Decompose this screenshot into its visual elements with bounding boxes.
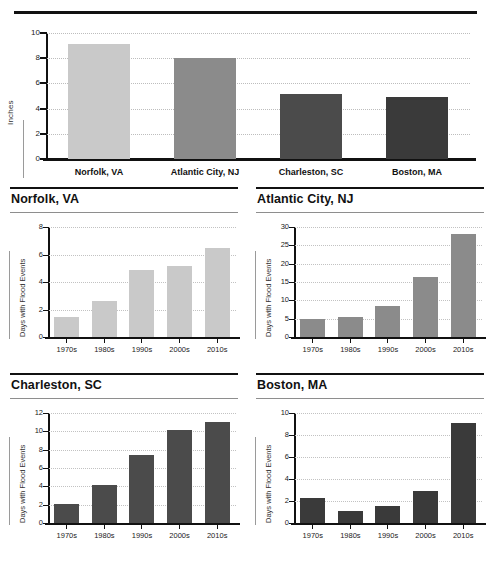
panel-title: Atlantic City, NJ <box>257 192 354 206</box>
panel-bar-cell <box>86 413 124 523</box>
panel-bar-cell <box>198 227 236 337</box>
panel-x-tick-label: 1980s <box>332 531 370 540</box>
panel-y-tick <box>289 523 295 524</box>
panel-x-tick-label: 1970s <box>48 345 86 354</box>
overview-y-tick-label: 8 <box>24 53 40 62</box>
panel-x-tick-label: 1970s <box>294 531 332 540</box>
panel-bar-cell <box>48 227 86 337</box>
panel-y-tick <box>43 337 49 338</box>
panel-y-tick-label: 5 <box>273 314 289 323</box>
panel-x-tick <box>407 525 445 529</box>
panel-plot-area: 0246810 <box>294 413 482 523</box>
panel-x-tick <box>86 525 124 529</box>
panel-y-axis-label: Days with Flood Events <box>18 445 27 523</box>
panel-bar[interactable] <box>92 301 117 337</box>
panel-bar[interactable] <box>129 270 154 337</box>
overview-x-tick-labels: Norfolk, VAAtlantic City, NJCharleston, … <box>46 167 470 177</box>
panel-y-tick-label: 4 <box>27 277 43 286</box>
panel-bar-cell <box>123 227 161 337</box>
panel-bars <box>294 413 482 523</box>
panel-x-tick <box>86 339 124 343</box>
panel-bar-cell <box>161 227 199 337</box>
panel-rule-top <box>256 187 484 189</box>
panel-x-tick <box>332 525 370 529</box>
panel-x-tick-label: 1980s <box>86 345 124 354</box>
panel-x-ticks <box>48 339 236 343</box>
panel-bar-cell <box>369 227 407 337</box>
panel-x-tick <box>369 525 407 529</box>
panel-bar[interactable] <box>167 430 192 523</box>
panel-x-tick-label: 1980s <box>86 531 124 540</box>
panel-bars <box>48 413 236 523</box>
panel-x-tick <box>123 525 161 529</box>
panel-x-tick-label: 1990s <box>369 531 407 540</box>
panel-plot-area: 02468 <box>48 227 236 337</box>
panel-bars <box>48 227 236 337</box>
panel-bar[interactable] <box>167 266 192 338</box>
overview-bar[interactable] <box>386 97 448 159</box>
panel-bar[interactable] <box>205 422 230 523</box>
panel-bar-cell <box>444 227 482 337</box>
panel-x-tick <box>332 339 370 343</box>
panel-x-tick-label: 1970s <box>294 345 332 354</box>
panel-x-tick <box>294 339 332 343</box>
overview-bar[interactable] <box>68 44 130 159</box>
panel-x-tick-labels: 1970s1980s1990s2000s2010s <box>294 345 482 354</box>
panel-bar-cell <box>161 413 199 523</box>
panel-x-tick-label: 2010s <box>198 345 236 354</box>
panel-bar[interactable] <box>92 485 117 523</box>
panel-y-tick-label: 6 <box>27 463 43 472</box>
panel-bar[interactable] <box>451 423 476 523</box>
overview-plot-area: 0246810 <box>46 33 470 159</box>
panel-rule-top <box>10 187 238 189</box>
panel-x-tick <box>444 339 482 343</box>
panel-bar-cell <box>332 227 370 337</box>
panel-bar-cell <box>369 413 407 523</box>
panel-y-tick-label: 6 <box>273 452 289 461</box>
overview-bars <box>46 33 470 159</box>
panel-x-tick-labels: 1970s1980s1990s2000s2010s <box>48 531 236 540</box>
panel-bar[interactable] <box>375 306 400 337</box>
panel-y-tick-label: 10 <box>273 408 289 417</box>
panel-title: Boston, MA <box>257 378 327 392</box>
panel-y-axis-label-rule <box>9 251 10 339</box>
panel-bar[interactable] <box>205 248 230 337</box>
panel-bar[interactable] <box>413 491 438 523</box>
overview-bar[interactable] <box>280 94 342 159</box>
panel-title: Norfolk, VA <box>11 192 79 206</box>
panel-bar-cell <box>123 413 161 523</box>
overview-chart: Inches 0246810 Norfolk, VAAtlantic City,… <box>0 20 491 185</box>
panel-rule-top <box>256 373 484 375</box>
panel-bar[interactable] <box>413 277 438 337</box>
panel-y-tick <box>289 337 295 338</box>
panel-y-tick-label: 20 <box>273 259 289 268</box>
panel-bar[interactable] <box>129 455 154 523</box>
panel-y-tick-label: 15 <box>273 277 289 286</box>
panel-bar[interactable] <box>338 511 363 523</box>
panel-x-tick-label: 2010s <box>444 345 482 354</box>
panel-x-tick-label: 2000s <box>161 531 199 540</box>
panel-bar[interactable] <box>300 319 325 337</box>
overview-bar[interactable] <box>174 58 236 159</box>
panel-bar[interactable] <box>375 506 400 523</box>
panel-boston: Boston, MA Days with Flood Events0246810… <box>246 371 491 559</box>
panel-y-tick-label: 8 <box>27 222 43 231</box>
panel-bar-cell <box>86 227 124 337</box>
overview-bar-cell <box>46 33 152 159</box>
panel-bar[interactable] <box>338 317 363 337</box>
panel-bar[interactable] <box>54 504 79 523</box>
panel-bar[interactable] <box>451 234 476 337</box>
panel-x-tick-label: 2000s <box>407 345 445 354</box>
panel-bar[interactable] <box>54 317 79 337</box>
overview-y-tick-label: 0 <box>24 154 40 163</box>
panel-x-tick-label: 1990s <box>369 345 407 354</box>
panel-bar[interactable] <box>300 498 325 523</box>
panel-bars <box>294 227 482 337</box>
panel-y-axis-label: Days with Flood Events <box>264 259 273 337</box>
panel-rule-bottom <box>256 398 484 399</box>
panel-rule-bottom <box>256 212 484 213</box>
panel-bar-cell <box>407 227 445 337</box>
panel-y-tick-label: 10 <box>273 295 289 304</box>
overview-y-tick-label: 6 <box>24 78 40 87</box>
panel-rule-bottom <box>10 398 238 399</box>
